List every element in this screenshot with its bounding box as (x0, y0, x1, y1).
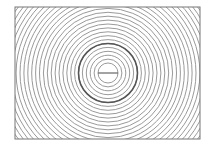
ring (24, 0, 192, 154)
diagram-canvas (0, 0, 209, 154)
ring (32, 0, 185, 149)
concentric-circles-diagram (0, 0, 209, 154)
ring (8, 0, 207, 154)
concentric-rings (0, 0, 209, 154)
ring (12, 0, 204, 154)
